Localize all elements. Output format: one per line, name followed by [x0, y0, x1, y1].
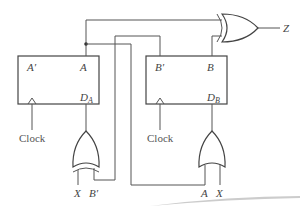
xor-gate-z: [217, 14, 280, 42]
ff-a-qbar-label: A′: [26, 61, 37, 73]
ff-b-q-label: B: [207, 61, 214, 73]
ff-b-d-label: D: [206, 91, 215, 103]
circuit-diagram: A′ A D A B′ B D B Clock Clock X B′ A X Z: [0, 0, 303, 209]
output-z-label: Z: [283, 22, 290, 34]
wire-b-to-xor-z: [212, 36, 222, 56]
clock-label-a: Clock: [19, 132, 46, 144]
xor-gate-da: [73, 104, 99, 185]
clock-label-b: Clock: [147, 132, 174, 144]
input-x2-label: X: [215, 187, 224, 199]
input-a-label: A: [200, 187, 208, 199]
ff-b-d-sub: B: [215, 96, 220, 105]
ff-b-qbar-label: B′: [155, 61, 165, 73]
ff-a-q-label: A: [79, 61, 87, 73]
input-bprime-label: B′: [89, 187, 99, 199]
ff-a-d-sub: A: [87, 96, 93, 105]
input-x-label: X: [73, 187, 82, 199]
or-gate-db: [199, 104, 225, 185]
ff-a-d-label: D: [79, 91, 88, 103]
page-shadow: [150, 196, 300, 206]
wire-a-to-xor-z: [86, 20, 222, 56]
